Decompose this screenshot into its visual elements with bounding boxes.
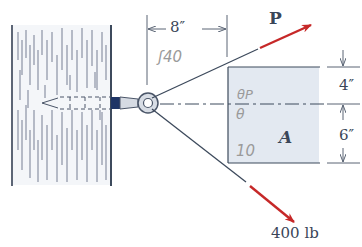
label-dim-6in: 6″	[339, 128, 354, 143]
diagram-canvas	[0, 0, 362, 247]
handwritten-ten: 10	[236, 144, 255, 159]
label-dim-4in: 4″	[339, 78, 354, 93]
handwritten-angle-40: ʃ40	[158, 50, 182, 65]
label-dim-8in: 8″	[170, 20, 185, 35]
handwritten-theta: θ	[236, 107, 245, 121]
label-region-a: A	[279, 129, 292, 146]
arrow-400	[250, 186, 294, 222]
handwritten-theta-p: θP	[237, 88, 253, 101]
force-diagram: 8″ P 4″ 6″ A 400 lb ʃ40 θP θ 10	[0, 0, 362, 247]
label-force-400: 400 lb	[271, 226, 319, 241]
dim-right	[327, 50, 360, 163]
arrow-p	[260, 25, 311, 48]
label-force-p: P	[269, 10, 282, 27]
wall	[12, 25, 111, 186]
eyebolt	[111, 93, 158, 113]
